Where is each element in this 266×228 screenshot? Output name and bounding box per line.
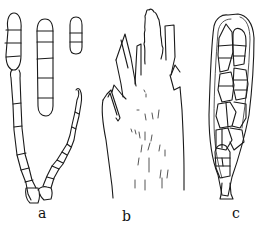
panel-b-drawing xyxy=(102,9,184,198)
panel-a-drawing xyxy=(5,13,82,203)
panel-label-a: a xyxy=(38,206,46,220)
figure: a b c xyxy=(0,0,266,228)
panel-label-c: c xyxy=(232,206,240,220)
panel-label-b: b xyxy=(122,209,131,223)
line-drawing xyxy=(0,0,266,228)
panel-c-drawing xyxy=(209,14,254,199)
